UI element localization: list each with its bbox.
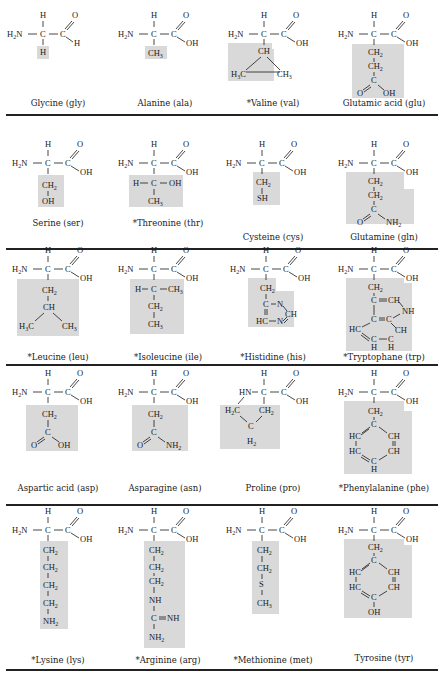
svg-text:C: C — [248, 421, 254, 431]
label-serine: Serine (ser) — [3, 218, 113, 228]
svg-text:C: C — [371, 204, 377, 214]
svg-text:CH: CH — [43, 302, 55, 312]
svg-text:NH: NH — [167, 613, 179, 623]
svg-text:CH: CH — [395, 325, 407, 335]
label-glutamic-acid: Glutamic acid (glu) — [329, 98, 439, 108]
svg-text:C: C — [371, 555, 377, 565]
svg-text:C: C — [371, 295, 377, 305]
svg-text:OH: OH — [169, 178, 181, 188]
svg-text:HC: HC — [349, 324, 361, 334]
structure-histidine: CH2 C N CH HC N — [230, 245, 310, 327]
svg-text:C: C — [151, 427, 157, 437]
structure-serine: CH2 OH — [12, 139, 92, 207]
structure-lysine: CH2 CH2 CH2 CH2 NH2 — [12, 506, 92, 629]
structure-tyrosine: CH2 C HC CH HC CH C OH — [338, 506, 418, 618]
svg-text:CH: CH — [388, 567, 400, 577]
structure-threonine: H C OH CH3 — [118, 139, 198, 207]
label-tryptophane: *Tryptophane (trp) — [329, 352, 439, 362]
svg-text:HN: HN — [239, 387, 251, 397]
label-phenylalanine: *Phenylalanine (phe) — [329, 483, 439, 493]
structure-leucine: CH2 CH H3C CH3 — [12, 245, 92, 336]
svg-text:C: C — [151, 178, 157, 188]
svg-text:H: H — [74, 38, 80, 48]
structure-asparagine: CH2 C O NH2 — [118, 368, 198, 451]
label-leucine: *Leucine (leu) — [3, 352, 113, 362]
structure-cysteine: CH2 SH — [226, 139, 306, 205]
structure-glutamic-acid: CH2 CH2 C O OH — [338, 10, 418, 98]
svg-text:CH: CH — [388, 431, 400, 441]
structure-aspartic-acid: CH2 C O OH — [12, 368, 92, 451]
svg-text:NH: NH — [402, 306, 414, 316]
svg-text:CH: CH — [258, 46, 270, 56]
svg-text:OH: OH — [42, 196, 54, 206]
svg-text:OH: OH — [58, 440, 70, 450]
svg-text:C: C — [281, 387, 287, 397]
svg-text:HC: HC — [349, 431, 361, 441]
label-threonine: *Threonine (thr) — [113, 218, 223, 228]
svg-text:O: O — [137, 440, 143, 450]
label-aspartic-acid: Aspartic acid (asp) — [3, 483, 113, 493]
svg-text:C: C — [371, 314, 377, 324]
label-arginine: *Arginine (arg) — [113, 655, 223, 665]
svg-text:C: C — [60, 29, 66, 39]
structure-isoleucine: H C CH3 CH2 CH3 — [118, 245, 198, 334]
svg-text:O: O — [72, 10, 78, 20]
svg-text:H: H — [135, 284, 141, 294]
svg-text:H: H — [40, 47, 46, 57]
svg-text:O: O — [357, 88, 363, 98]
svg-text:H: H — [388, 342, 394, 352]
svg-text:C: C — [151, 284, 157, 294]
label-glycine: Glycine (gly) — [3, 98, 113, 108]
svg-text:H: H — [133, 178, 139, 188]
label-proline: Proline (pro) — [218, 483, 328, 493]
svg-text:H2N: H2N — [7, 29, 22, 40]
svg-text:O: O — [31, 440, 37, 450]
svg-text:CH: CH — [388, 295, 400, 305]
svg-text:C: C — [263, 299, 269, 309]
label-valine: *Valine (val) — [218, 98, 328, 108]
structure-arginine: CH2 CH2 CH2 NH C NH NH2 — [118, 506, 198, 648]
svg-text:C: C — [45, 427, 51, 437]
svg-text:OH: OH — [368, 607, 380, 617]
svg-text:CH: CH — [388, 582, 400, 592]
svg-text:H: H — [371, 342, 377, 352]
svg-text:C: C — [386, 314, 392, 324]
svg-text:HC: HC — [349, 582, 361, 592]
svg-text:N: N — [277, 316, 283, 326]
svg-text:NH: NH — [149, 595, 161, 605]
svg-text:C: C — [40, 29, 46, 39]
svg-text:C: C — [151, 613, 157, 623]
svg-text:SH: SH — [257, 193, 268, 203]
svg-text:C: C — [371, 592, 377, 602]
svg-text:HC: HC — [349, 567, 361, 577]
svg-text:OH: OH — [296, 396, 308, 406]
svg-text:O: O — [293, 368, 299, 378]
structure-glycine: H H2N C C O H H — [7, 10, 80, 59]
svg-text:H: H — [371, 464, 377, 474]
svg-text:C: C — [261, 387, 267, 397]
svg-text:C: C — [371, 75, 377, 85]
svg-text:S: S — [259, 579, 264, 589]
svg-text:O: O — [357, 217, 363, 227]
label-tyrosine: Tyrosine (tyr) — [329, 653, 439, 663]
svg-text:H: H — [261, 368, 267, 378]
label-methionine: *Methionine (met) — [218, 655, 328, 665]
structure-alanine: CH3 — [118, 10, 198, 59]
structure-phenylalanine: CH2 C HC CH HC CH C H — [338, 368, 418, 474]
label-asparagine: Asparagine (asn) — [110, 483, 220, 493]
structure-tryptophane: CH2 C CH NH C C CH HC C C H H — [338, 245, 418, 352]
label-glutamine: Glutamine (gln) — [329, 232, 439, 242]
label-isoleucine: *Isoleucine (ile) — [113, 352, 223, 362]
svg-text:H: H — [40, 10, 46, 20]
structure-methionine: CH2 CH2 S CH3 — [226, 506, 306, 614]
svg-text:C: C — [371, 419, 377, 429]
svg-text:CH3: CH3 — [277, 69, 292, 80]
structure-proline: H HN C C O OH H2C CH2 C H2 — [220, 368, 308, 449]
structure-glutamine: CH2 CH2 C O NH2 — [338, 139, 418, 228]
structure-valine: CH H3C CH3 — [228, 10, 308, 81]
svg-text:CH: CH — [388, 446, 400, 456]
label-lysine: *Lysine (lys) — [3, 655, 113, 665]
label-cysteine: Cysteine (cys) — [218, 232, 328, 242]
svg-text:N: N — [277, 299, 283, 309]
label-alanine: Alanine (ala) — [110, 98, 220, 108]
